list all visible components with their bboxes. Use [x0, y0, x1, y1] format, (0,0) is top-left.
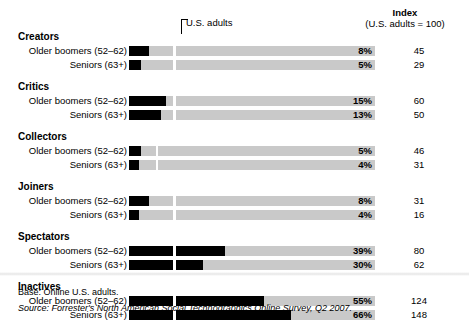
- index-value: 29: [380, 59, 458, 71]
- index-value: 31: [380, 159, 458, 171]
- row-label: Seniors (63+): [0, 108, 127, 122]
- benchmark-tick: [156, 145, 159, 157]
- bar-fill: [129, 246, 225, 256]
- bar-fill: [129, 46, 149, 56]
- chart-body: CreatorsOlder boomers (52–62)8%45Seniors…: [0, 30, 469, 321]
- bar-fill: [129, 110, 161, 120]
- chart-group: CollectorsOlder boomers (52–62)5%46Senio…: [0, 130, 469, 172]
- index-value: 124: [380, 295, 458, 307]
- benchmark-tick: [173, 45, 176, 57]
- bar-fill: [129, 196, 149, 206]
- row-label: Seniors (63+): [0, 158, 127, 172]
- chart-row: Seniors (63+)30%62: [0, 258, 469, 272]
- benchmark-tick: [173, 245, 176, 257]
- chart-row: Seniors (63+)5%29: [0, 58, 469, 72]
- group-spacer: [0, 122, 469, 130]
- bar-fill: [129, 146, 141, 156]
- bar-track: 5%: [129, 146, 375, 156]
- social-technographics-chart: Index (U.S. adults = 100) U.S. adults Cr…: [0, 0, 469, 321]
- row-label: Older boomers (52–62): [0, 244, 127, 258]
- row-label: Older boomers (52–62): [0, 194, 127, 208]
- benchmark-tick: [156, 159, 159, 171]
- chart-group: SpectatorsOlder boomers (52–62)39%80Seni…: [0, 230, 469, 272]
- index-value: 16: [380, 209, 458, 221]
- bar-fill: [129, 160, 139, 170]
- bar-track: 8%: [129, 196, 375, 206]
- group-spacer: [0, 172, 469, 180]
- bar-track: 8%: [129, 46, 375, 56]
- benchmark-annotation-label: U.S. adults: [186, 17, 232, 28]
- chart-row: Seniors (63+)4%16: [0, 208, 469, 222]
- group-title-spectators: Spectators: [0, 230, 469, 244]
- benchmark-tick: [173, 209, 176, 221]
- bar-fill: [129, 210, 139, 220]
- bar-track: 39%: [129, 246, 375, 256]
- footnote-source: Source: Forrester's North American Socia…: [18, 303, 352, 313]
- bar-value-label: 4%: [358, 160, 372, 170]
- bar-track: 4%: [129, 160, 375, 170]
- index-value: 80: [380, 245, 458, 257]
- bar-value-label: 8%: [358, 196, 372, 206]
- bar-track: 13%: [129, 110, 375, 120]
- bar-fill: [129, 260, 203, 270]
- bar-value-label: 30%: [353, 260, 372, 270]
- benchmark-tick: [173, 59, 176, 71]
- bar-value-label: 15%: [353, 96, 372, 106]
- benchmark-tick: [173, 95, 176, 107]
- chart-group: CreatorsOlder boomers (52–62)8%45Seniors…: [0, 30, 469, 72]
- bar-track: 30%: [129, 260, 375, 270]
- group-title-creators: Creators: [0, 30, 469, 44]
- bar-fill: [129, 96, 166, 106]
- row-label: Older boomers (52–62): [0, 94, 127, 108]
- index-value: 45: [380, 45, 458, 57]
- group-title-joiners: Joiners: [0, 180, 469, 194]
- bar-value-label: 55%: [353, 296, 372, 306]
- bar-value-label: 39%: [353, 246, 372, 256]
- index-value: 31: [380, 195, 458, 207]
- bar-fill: [129, 60, 141, 70]
- chart-row: Seniors (63+)13%50: [0, 108, 469, 122]
- index-value: 50: [380, 109, 458, 121]
- index-value: 60: [380, 95, 458, 107]
- chart-row: Older boomers (52–62)39%80: [0, 244, 469, 258]
- row-label: Older boomers (52–62): [0, 44, 127, 58]
- benchmark-tick: [173, 195, 176, 207]
- bar-track: 5%: [129, 60, 375, 70]
- index-header-subtitle: (U.S. adults = 100): [345, 18, 465, 29]
- index-value: 148: [380, 309, 458, 321]
- row-label: Seniors (63+): [0, 58, 127, 72]
- chart-row: Older boomers (52–62)15%60: [0, 94, 469, 108]
- index-value: 62: [380, 259, 458, 271]
- chart-row: Older boomers (52–62)8%31: [0, 194, 469, 208]
- section-divider: [0, 272, 469, 276]
- bar-value-label: 8%: [358, 46, 372, 56]
- index-header-title: Index: [345, 7, 465, 18]
- benchmark-tick: [173, 109, 176, 121]
- chart-row: Older boomers (52–62)5%46: [0, 144, 469, 158]
- bar-value-label: 5%: [358, 60, 372, 70]
- bar-value-label: 13%: [353, 110, 372, 120]
- chart-row: Older boomers (52–62)8%45: [0, 44, 469, 58]
- group-spacer: [0, 222, 469, 230]
- group-title-critics: Critics: [0, 80, 469, 94]
- bar-track: 4%: [129, 210, 375, 220]
- bar-track: 15%: [129, 96, 375, 106]
- row-label: Seniors (63+): [0, 208, 127, 222]
- chart-row: Seniors (63+)4%31: [0, 158, 469, 172]
- benchmark-tick: [173, 259, 176, 271]
- group-spacer: [0, 72, 469, 80]
- row-label: Seniors (63+): [0, 258, 127, 272]
- index-value: 46: [380, 145, 458, 157]
- footnote-base: Base: Online U.S. adults.: [18, 287, 119, 297]
- index-column-header: Index (U.S. adults = 100): [345, 7, 465, 29]
- bar-value-label: 66%: [353, 310, 372, 320]
- row-label: Older boomers (52–62): [0, 144, 127, 158]
- group-title-collectors: Collectors: [0, 130, 469, 144]
- bar-value-label: 5%: [358, 146, 372, 156]
- chart-group: CriticsOlder boomers (52–62)15%60Seniors…: [0, 80, 469, 122]
- chart-group: JoinersOlder boomers (52–62)8%31Seniors …: [0, 180, 469, 222]
- bar-value-label: 4%: [358, 210, 372, 220]
